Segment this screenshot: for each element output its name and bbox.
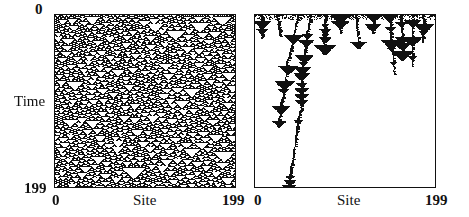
left-y-tick-top: 0	[35, 2, 43, 17]
left-x-tick-right: 199	[222, 193, 245, 208]
left-x-tick-left: 0	[52, 193, 60, 208]
spacetime-diagram-left	[55, 15, 235, 187]
right-x-axis-label: Site	[337, 193, 360, 208]
left-y-tick-bottom: 199	[24, 181, 47, 196]
spacetime-diagram-right	[255, 15, 435, 187]
left-x-axis-label: Site	[133, 193, 156, 208]
panel-left	[54, 14, 236, 188]
right-x-tick-right: 199	[425, 193, 448, 208]
panel-right	[254, 14, 436, 188]
right-x-tick-left: 0	[254, 193, 262, 208]
left-y-axis-label: Time	[14, 94, 45, 109]
